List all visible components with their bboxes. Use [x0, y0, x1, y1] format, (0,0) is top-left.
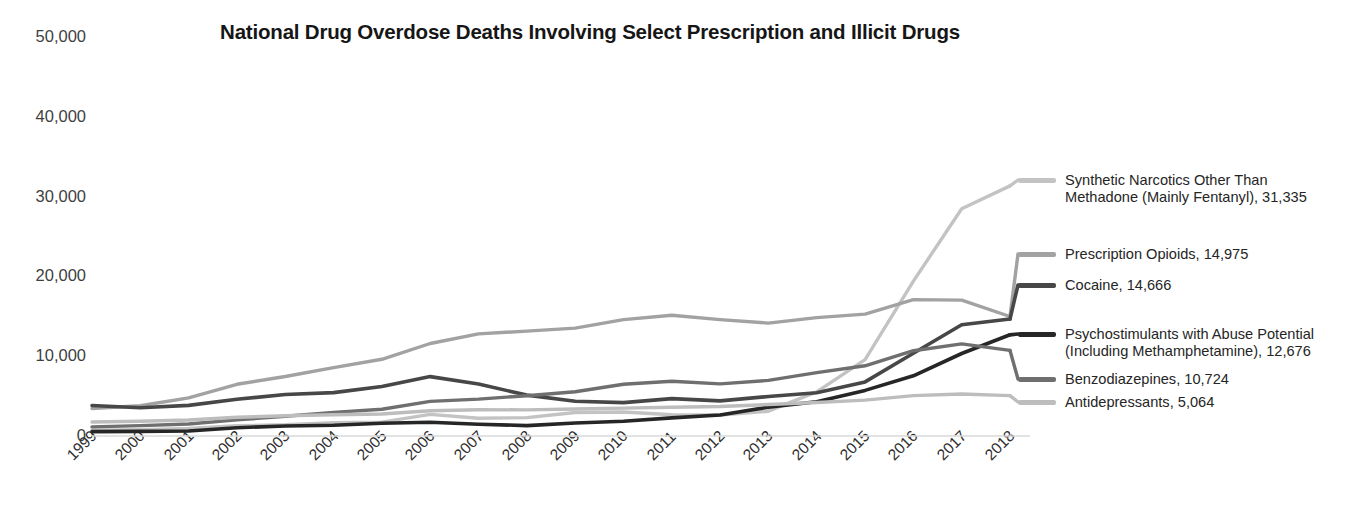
legend-item-label: Prescription Opioids, 14,975 — [1065, 246, 1248, 263]
chart-container: National Drug Overdose Deaths Involving … — [0, 0, 1361, 511]
legend-swatch-icon — [1018, 332, 1056, 337]
legend-item[interactable]: Benzodiazepines, 10,724 — [1018, 371, 1229, 388]
legend-swatch-icon — [1018, 252, 1056, 257]
legend-item[interactable]: Antidepressants, 5,064 — [1018, 394, 1214, 411]
legend-connector-3 — [1010, 334, 1018, 335]
legend-swatch-icon — [1018, 178, 1056, 183]
legend-swatch-icon — [1018, 283, 1056, 288]
legend-item[interactable]: Cocaine, 14,666 — [1018, 277, 1171, 294]
legend-swatch-icon — [1018, 377, 1056, 382]
legend-item[interactable]: Synthetic Narcotics Other Than Methadone… — [1018, 172, 1307, 206]
legend-item[interactable]: Psychostimulants with Abuse Potential (I… — [1018, 326, 1314, 360]
chart-legend: Synthetic Narcotics Other Than Methadone… — [1018, 0, 1361, 511]
legend-item-label: Psychostimulants with Abuse Potential (I… — [1065, 326, 1314, 360]
legend-item-label: Benzodiazepines, 10,724 — [1065, 371, 1229, 388]
legend-connector-5 — [1010, 396, 1018, 402]
legend-connector-4 — [1010, 350, 1018, 379]
legend-item-label: Synthetic Narcotics Other Than Methadone… — [1065, 172, 1307, 206]
legend-item[interactable]: Prescription Opioids, 14,975 — [1018, 246, 1248, 263]
legend-item-label: Cocaine, 14,666 — [1065, 277, 1171, 294]
legend-swatch-icon — [1018, 400, 1056, 405]
legend-connector-0 — [1010, 180, 1018, 186]
legend-item-label: Antidepressants, 5,064 — [1065, 394, 1214, 411]
